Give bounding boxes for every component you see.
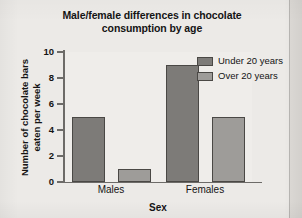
chart-figure: Male/female differences in chocolate con… xyxy=(0,0,302,218)
y-axis-tick xyxy=(57,77,63,78)
chart-title-line-2: consumption by age xyxy=(34,22,270,35)
bar xyxy=(118,169,151,182)
legend-item-label: Over 20 years xyxy=(218,71,278,81)
legend-swatch-icon xyxy=(197,57,213,66)
legend-item-label: Under 20 years xyxy=(218,56,283,66)
y-axis-tick xyxy=(57,129,63,130)
x-axis-category-label: Males xyxy=(64,185,158,195)
y-axis-tick xyxy=(57,51,63,52)
legend-item: Over 20 years xyxy=(197,69,293,83)
legend-swatch-icon xyxy=(197,72,213,81)
page-right-margin xyxy=(290,0,302,218)
y-axis-title: Number of chocolate bars eaten per week xyxy=(19,45,42,191)
page-right-rule xyxy=(289,0,290,218)
y-axis-title-line-1: Number of chocolate bars xyxy=(19,45,31,191)
y-axis-tick xyxy=(57,103,63,104)
y-axis-title-line-2: eaten per week xyxy=(30,45,42,191)
legend-item: Under 20 years xyxy=(197,54,293,68)
chart-legend: Under 20 yearsOver 20 years xyxy=(197,54,293,84)
bar xyxy=(166,65,199,182)
bar xyxy=(212,117,245,182)
chart-title-line-1: Male/female differences in chocolate xyxy=(34,9,270,22)
y-axis-tick xyxy=(57,155,63,156)
chart-title: Male/female differences in chocolate con… xyxy=(34,9,270,35)
x-axis-category-label: Females xyxy=(158,185,252,195)
bar xyxy=(72,117,105,182)
y-axis-tick xyxy=(57,181,63,182)
x-axis-title: Sex xyxy=(64,202,252,213)
